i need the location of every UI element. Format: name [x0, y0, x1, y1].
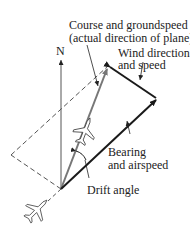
course-leader [87, 45, 98, 86]
wind-vector-diagram: N Course and groundspeed (actual directi… [0, 0, 190, 236]
north-label: N [56, 44, 65, 58]
dashed-extension [48, 189, 61, 201]
dashed-side-2 [11, 66, 108, 155]
airplane-icon [70, 114, 100, 148]
course-label-line1: Course and groundspeed [69, 18, 188, 32]
course-label-line2: (actual direction of plane) [69, 31, 190, 45]
bearing-label-line2: and airspeed [108, 158, 168, 172]
drift-angle-label: Drift angle [87, 183, 139, 197]
dashed-side-1 [11, 155, 61, 189]
bearing-label-line1: Bearing [108, 145, 146, 159]
wind-label-line2: and speed [118, 58, 166, 72]
airplane-icon [20, 192, 55, 227]
drift-angle-arc [76, 151, 86, 160]
